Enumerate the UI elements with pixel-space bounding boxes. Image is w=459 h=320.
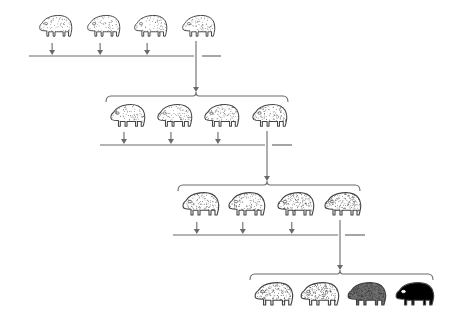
small-down-arrow <box>97 43 103 55</box>
animal-body <box>40 15 72 36</box>
animal-eye <box>402 290 406 293</box>
peccary-icon <box>87 14 120 36</box>
peccary-icon <box>183 192 220 216</box>
animal-body <box>183 15 215 36</box>
small-down-arrow <box>121 132 127 144</box>
peccary-icon <box>396 283 433 305</box>
animal-body <box>278 193 314 215</box>
peccary-icon <box>325 191 361 215</box>
selection-arrow <box>193 41 199 92</box>
animal-body <box>396 283 433 305</box>
peccary-icon <box>110 103 145 126</box>
generation-4 <box>250 270 433 280</box>
group-brace <box>106 92 288 102</box>
peccary-icon <box>183 15 216 37</box>
peccary-icon <box>157 104 191 126</box>
small-down-arrow <box>144 43 150 55</box>
group-brace <box>178 181 360 191</box>
selection-arrow <box>337 220 343 270</box>
small-down-arrow <box>49 43 55 55</box>
peccary-icon <box>348 281 387 305</box>
peccary-icon <box>301 282 340 306</box>
small-down-arrow <box>215 132 221 144</box>
selection-diagram: Successive generations of selection towa… <box>0 0 459 320</box>
selection-arrow <box>264 131 270 181</box>
small-down-arrow <box>289 222 295 234</box>
peccary-icon <box>229 192 265 216</box>
peccary-icon <box>39 14 72 36</box>
animal-body <box>88 15 120 36</box>
connector-layer <box>29 41 433 280</box>
animal-body <box>111 105 145 127</box>
small-down-arrow <box>240 222 246 234</box>
generation-1 <box>29 41 221 92</box>
small-down-arrow <box>168 132 174 144</box>
animal-body <box>135 15 167 36</box>
animal-body <box>253 105 287 127</box>
peccary-icon <box>255 282 293 306</box>
peccary-icon <box>205 103 240 126</box>
peccary-icon <box>278 192 315 215</box>
small-down-arrow <box>194 222 200 234</box>
peccary-icon <box>134 15 167 37</box>
peccary-icon <box>252 103 286 126</box>
diagram-canvas <box>0 0 459 320</box>
animal-layer <box>39 14 433 305</box>
group-brace <box>250 270 433 280</box>
